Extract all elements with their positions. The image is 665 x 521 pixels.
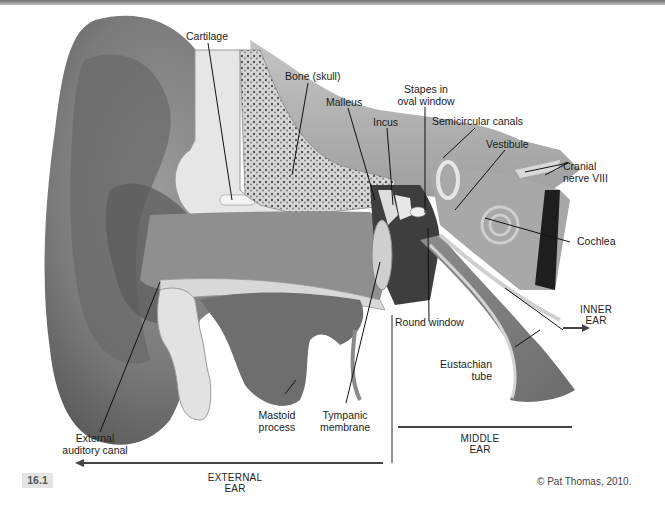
region-inner-line2: EAR (576, 315, 616, 326)
label-ext-canal-line1: External (60, 432, 130, 444)
region-inner-line1: INNER (576, 304, 616, 315)
region-external-ear: EXTERNAL EAR (205, 472, 265, 494)
figure-number-badge: 16.1 (22, 473, 53, 488)
label-mastoid-process: Mastoid process (252, 409, 302, 433)
label-cranial-nerve: Cranial nerve VIII (563, 160, 608, 184)
label-vestibule: Vestibule (486, 138, 529, 150)
label-mastoid-line1: Mastoid (252, 409, 302, 421)
label-cartilage: Cartilage (186, 30, 228, 42)
label-external-auditory-canal: External auditory canal (60, 432, 130, 456)
mastoid-process (200, 293, 363, 406)
label-stapes-line1: Stapes in (397, 83, 455, 95)
label-eustachian-tube: Eustachian tube (437, 358, 492, 382)
region-inner-ear: INNER EAR (576, 304, 616, 326)
region-middle-ear: MIDDLE EAR (455, 433, 505, 455)
label-tympanic-line1: Tympanic (314, 409, 376, 421)
label-ext-canal-line2: auditory canal (60, 444, 130, 456)
label-stapes: Stapes in oval window (397, 83, 455, 107)
label-tympanic-line2: membrane (314, 421, 376, 433)
label-tympanic-membrane: Tympanic membrane (314, 409, 376, 433)
styloid-process (353, 330, 360, 400)
stapes-shape (410, 207, 426, 217)
copyright-credit: © Pat Thomas, 2010. (537, 476, 631, 487)
label-stapes-line2: oval window (397, 95, 455, 107)
label-mastoid-line2: process (252, 421, 302, 433)
label-bone-skull: Bone (skull) (285, 70, 340, 82)
tympanic-membrane-shape (372, 220, 392, 290)
region-external-line2: EAR (205, 483, 265, 494)
label-cochlea: Cochlea (577, 235, 616, 247)
label-incus: Incus (373, 116, 398, 128)
label-round-window: Round window (395, 316, 464, 328)
region-middle-line1: MIDDLE (455, 433, 505, 444)
label-eustachian-line1: Eustachian (437, 358, 492, 370)
label-cranial-nerve-line2: nerve VIII (563, 172, 608, 184)
label-eustachian-line2: tube (437, 370, 492, 382)
region-external-line1: EXTERNAL (205, 472, 265, 483)
region-middle-line2: EAR (455, 444, 505, 455)
label-cranial-nerve-line1: Cranial (563, 160, 608, 172)
label-semicircular-canals: Semicircular canals (432, 115, 523, 127)
label-malleus: Malleus (326, 96, 362, 108)
